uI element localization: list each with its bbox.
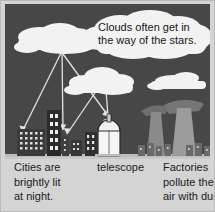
figure-root: Clouds often get in the way of the stars… — [0, 0, 215, 212]
caption-cities-line-1: Cities are — [14, 160, 92, 175]
caption-row: Cities are brightly lit at night. telesc… — [5, 160, 210, 208]
caption-factories: Factories pollute the air with dust. — [163, 160, 215, 204]
caption-factories-line-1: Factories — [163, 160, 215, 175]
caption-cities-line-3: at night. — [14, 189, 92, 204]
caption-telescope: telescope — [97, 160, 159, 175]
caption-cities-line-2: brightly lit — [14, 175, 92, 190]
caption-telescope-line-1: telescope — [97, 160, 159, 175]
clouds-callout-line-2: the way of the stars. — [98, 34, 210, 47]
caption-factories-line-2: pollute the — [163, 175, 215, 190]
caption-factories-line-3: air with dust. — [163, 189, 215, 204]
clouds-callout-text: Clouds often get in the way of the stars… — [98, 21, 210, 47]
night-scene: Clouds often get in the way of the stars… — [5, 4, 210, 159]
caption-cities: Cities are brightly lit at night. — [14, 160, 92, 204]
clouds-callout-line-1: Clouds often get in — [98, 21, 210, 34]
